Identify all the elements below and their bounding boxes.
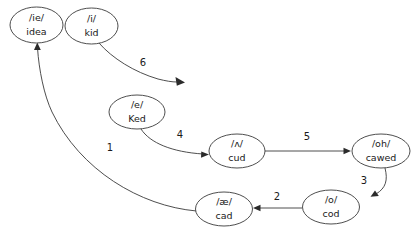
node-cad-word: cad (215, 210, 232, 221)
edge-1-group: 1 (34, 43, 197, 212)
edge-3-group: 3 (361, 168, 386, 197)
node-ked-word: Ked (128, 113, 146, 124)
edge-3-label: 3 (361, 175, 367, 186)
edge-4-group: 4 (141, 129, 209, 158)
node-idea-word: idea (26, 26, 46, 37)
edge-1-arrowhead (34, 43, 41, 51)
node-kid-phoneme: /i/ (87, 13, 97, 24)
node-cud[interactable]: /ʌ/ cud (209, 134, 265, 168)
edge-4-path (141, 129, 203, 154)
edge-6-path (99, 43, 158, 79)
node-ked[interactable]: /e/ Ked (109, 95, 165, 129)
node-cawed[interactable]: /oh/ cawed (352, 134, 410, 168)
node-cud-phoneme: /ʌ/ (231, 138, 244, 149)
node-cod[interactable]: /o/ cod (303, 190, 360, 224)
edge-6-path-tail (158, 79, 177, 82)
edge-5-group: 5 (265, 131, 351, 154)
node-cad-phoneme: /æ/ (216, 196, 233, 207)
node-idea-phoneme: /ie/ (29, 12, 45, 23)
edge-1-path (38, 48, 197, 211)
edge-1-label: 1 (107, 142, 113, 153)
node-cud-word: cud (228, 152, 245, 163)
node-cawed-word: cawed (366, 152, 397, 163)
edge-4-label: 4 (177, 129, 183, 140)
edge-3-arrowhead (371, 191, 379, 197)
edge-4-arrowhead (201, 151, 209, 157)
node-ked-phoneme: /e/ (131, 99, 144, 110)
node-kid-word: kid (84, 27, 98, 38)
vowel-shift-diagram: 1 2 3 4 5 6 (0, 0, 419, 239)
node-cawed-phoneme: /oh/ (372, 138, 391, 149)
edge-6-arrowhead (176, 77, 186, 86)
edge-2-arrowhead (253, 205, 261, 211)
edge-5-arrowhead (344, 148, 352, 154)
edge-6-group: 6 (99, 43, 185, 86)
node-kid[interactable]: /i/ kid (65, 8, 118, 44)
edge-2-group: 2 (253, 191, 302, 211)
edge-5-label: 5 (304, 131, 310, 142)
node-idea[interactable]: /ie/ idea (10, 7, 63, 43)
edge-2-label: 2 (274, 191, 280, 202)
node-cod-phoneme: /o/ (325, 194, 338, 205)
node-cod-word: cod (322, 208, 339, 219)
node-cad[interactable]: /æ/ cad (196, 192, 253, 226)
diagram-canvas: 1 2 3 4 5 6 (0, 0, 419, 239)
edge-6-label: 6 (140, 57, 146, 68)
edge-3-path (376, 168, 386, 194)
